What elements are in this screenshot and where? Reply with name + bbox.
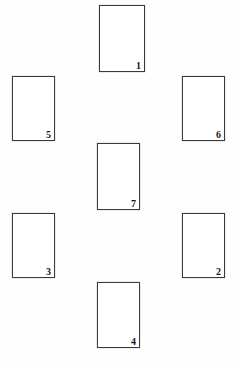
rectangle-node-2[interactable]: 2	[182, 213, 225, 278]
rectangle-label-4: 4	[131, 336, 136, 347]
rectangle-node-6[interactable]: 6	[182, 76, 225, 141]
rectangle-label-2: 2	[216, 266, 221, 277]
rectangle-label-1: 1	[136, 60, 141, 71]
rectangle-node-5[interactable]: 5	[12, 76, 55, 141]
rectangle-node-7[interactable]: 7	[97, 143, 140, 210]
rectangle-label-6: 6	[216, 129, 221, 140]
rectangle-label-5: 5	[46, 129, 51, 140]
rectangle-node-4[interactable]: 4	[97, 282, 140, 348]
rectangle-node-1[interactable]: 1	[99, 5, 145, 72]
rectangle-label-7: 7	[131, 198, 136, 209]
rectangle-label-3: 3	[46, 266, 51, 277]
rectangle-node-3[interactable]: 3	[12, 213, 55, 278]
diagram-canvas: 1 5 6 7 3 2 4	[0, 0, 239, 367]
